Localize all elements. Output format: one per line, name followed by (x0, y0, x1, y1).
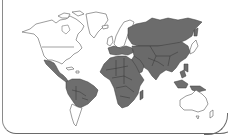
region-tasmania (196, 116, 199, 119)
region-madagascar (140, 90, 143, 100)
region-greenland (86, 12, 108, 38)
world-map (0, 0, 228, 138)
region-north-america (22, 16, 84, 64)
region-uk (107, 36, 113, 46)
region-southern-europe (108, 46, 134, 55)
region-southern-cone (70, 104, 82, 126)
region-caribbean (66, 67, 79, 73)
region-japan (190, 40, 198, 54)
region-iceland (102, 25, 108, 29)
region-australia (180, 90, 208, 112)
region-southeast-asia (174, 70, 206, 92)
region-philippines (184, 64, 188, 72)
region-russia (128, 18, 202, 46)
region-mexico-central-america (44, 60, 68, 82)
